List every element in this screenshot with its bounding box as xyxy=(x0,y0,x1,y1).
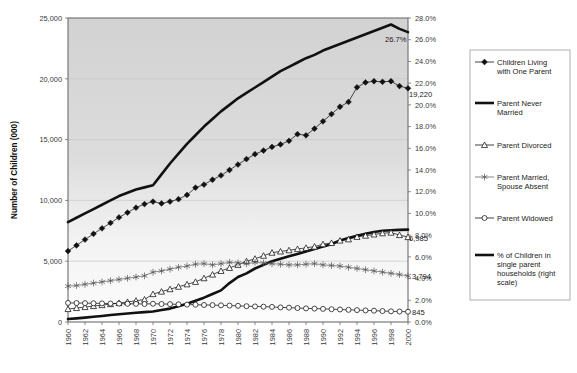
y2-tick-label: 20.0% xyxy=(415,101,436,110)
legend-label: Parent Divorced xyxy=(497,141,551,150)
x-tick-label: 1970 xyxy=(149,329,158,345)
legend-label: scale) xyxy=(497,278,518,287)
marker-circle xyxy=(142,302,147,307)
legend-label: Parent Never xyxy=(497,99,542,108)
marker-circle xyxy=(253,304,258,309)
marker-circle xyxy=(202,302,207,307)
legend-label: Parent Married, xyxy=(497,173,549,182)
y-tick-label: 20,000 xyxy=(39,75,62,84)
y2-tick-label: 14.0% xyxy=(415,166,436,175)
marker-circle xyxy=(83,301,88,306)
marker-circle xyxy=(210,303,215,308)
marker-circle xyxy=(176,302,181,307)
x-axis-tick-labels: 1960196219641966196819701972197419761978… xyxy=(64,329,413,345)
data-label: 19,220 xyxy=(409,90,432,99)
x-tick-label: 1988 xyxy=(302,329,311,345)
x-tick-label: 1996 xyxy=(370,329,379,345)
marker-circle xyxy=(151,301,156,306)
y2-tick-label: 18.0% xyxy=(415,122,436,131)
x-tick-label: 1964 xyxy=(98,329,107,345)
marker-circle xyxy=(117,301,122,306)
marker-circle xyxy=(159,302,164,307)
x-tick-label: 1962 xyxy=(81,329,90,345)
x-tick-label: 1978 xyxy=(217,329,226,345)
x-tick-label: 1974 xyxy=(183,329,192,345)
legend-label: households (right xyxy=(497,269,556,278)
x-tick-label: 1966 xyxy=(115,329,124,345)
data-label: 3,794 xyxy=(412,272,431,281)
marker-circle xyxy=(295,306,300,311)
x-tick-label: 1994 xyxy=(353,329,362,345)
marker-circle xyxy=(193,302,198,307)
y2-tick-label: 0.0% xyxy=(415,318,432,327)
marker-circle xyxy=(389,309,394,314)
x-tick-label: 2000 xyxy=(404,329,413,345)
marker-circle xyxy=(66,300,71,305)
marker-circle xyxy=(482,216,487,221)
chart-container: 25,00020,00015,00010,0005,0000 28.0%26.0… xyxy=(0,0,577,373)
marker-circle xyxy=(363,308,368,313)
marker-circle xyxy=(185,302,190,307)
marker-circle xyxy=(125,301,130,306)
marker-circle xyxy=(219,303,224,308)
y2-tick-label: 16.0% xyxy=(415,144,436,153)
marker-circle xyxy=(346,307,351,312)
y-tick-label: 10,000 xyxy=(39,196,62,205)
legend-label: Married xyxy=(497,108,523,117)
marker-circle xyxy=(134,301,139,306)
x-tick-label: 1990 xyxy=(319,329,328,345)
marker-circle xyxy=(338,307,343,312)
x-tick-label: 1976 xyxy=(200,329,209,345)
marker-circle xyxy=(406,309,411,314)
x-tick-label: 1960 xyxy=(64,329,73,345)
y2-tick-label: 22.0% xyxy=(415,79,436,88)
legend-label: Spouse Absent xyxy=(497,182,549,191)
y2-tick-label: 26.0% xyxy=(415,35,436,44)
y-tick-label: 15,000 xyxy=(39,135,62,144)
y2-tick-label: 24.0% xyxy=(415,57,436,66)
data-label: 26.7% xyxy=(385,35,407,44)
x-tick-label: 1984 xyxy=(268,329,277,345)
chart-legend: Children Livingwith One ParentParent Nev… xyxy=(470,50,570,300)
y-tick-label: 25,000 xyxy=(39,14,62,23)
x-tick-label: 1986 xyxy=(285,329,294,345)
marker-circle xyxy=(380,309,385,314)
y-tick-label: 5,000 xyxy=(44,257,63,266)
y-axis-title: Number of Children (000) xyxy=(10,121,19,219)
marker-circle xyxy=(100,301,105,306)
x-tick-label: 1972 xyxy=(166,329,175,345)
marker-circle xyxy=(261,304,266,309)
y2-tick-label: 12.0% xyxy=(415,187,436,196)
marker-circle xyxy=(108,301,113,306)
marker-circle xyxy=(244,304,249,309)
marker-circle xyxy=(91,301,96,306)
y-tick-label: 0 xyxy=(58,318,62,327)
marker-circle xyxy=(329,307,334,312)
data-label: 6,985 xyxy=(409,234,428,243)
marker-circle xyxy=(287,305,292,310)
data-label: 845 xyxy=(412,308,425,317)
legend-label: with One Parent xyxy=(496,67,552,76)
marker-circle xyxy=(168,302,173,307)
marker-circle xyxy=(312,306,317,311)
legend-label: % of Children in xyxy=(497,251,551,260)
x-tick-label: 1982 xyxy=(251,329,260,345)
x-tick-label: 1980 xyxy=(234,329,243,345)
marker-circle xyxy=(270,304,275,309)
y-axis-tick-labels: 25,00020,00015,00010,0005,0000 xyxy=(39,14,62,327)
y2-tick-label: 2.0% xyxy=(415,296,432,305)
marker-circle xyxy=(74,301,79,306)
legend-label: Parent Widowed xyxy=(497,214,553,223)
marker-circle xyxy=(372,308,377,313)
chart-svg: 25,00020,00015,00010,0005,0000 28.0%26.0… xyxy=(0,0,577,373)
marker-circle xyxy=(304,306,309,311)
legend-label: Children Living xyxy=(497,58,547,67)
legend-label: single parent xyxy=(497,260,541,269)
x-tick-label: 1992 xyxy=(336,329,345,345)
marker-circle xyxy=(236,303,241,308)
marker-circle xyxy=(227,303,232,308)
x-tick-label: 1998 xyxy=(387,329,396,345)
y2-tick-label: 6.0% xyxy=(415,253,432,262)
y2-tick-label: 10.0% xyxy=(415,209,436,218)
marker-circle xyxy=(397,309,402,314)
